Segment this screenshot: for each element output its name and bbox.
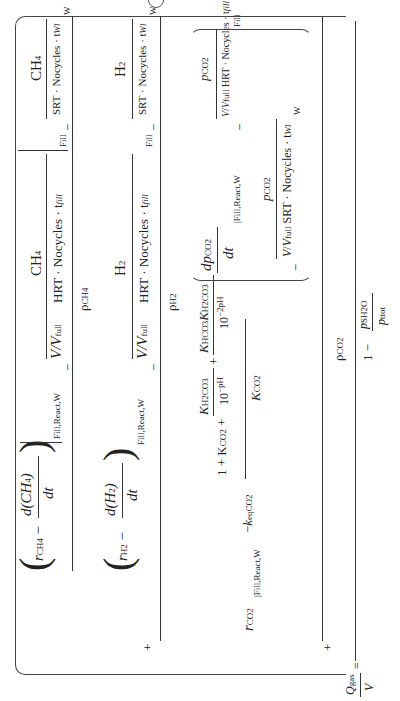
co2-w-bar [276,119,277,259]
co2-fill-bar [216,29,217,119]
ch4-density: ρCH4 [76,287,92,311]
ch4-fill-den: HRT · Nocycles · tfill [50,194,66,303]
main-fraction-bar [355,21,356,661]
co2-fill-eval: Fill [232,14,242,27]
ch4-eval-sub: Fill,React,W [52,393,62,439]
h2-derivative-den: dt [124,489,141,501]
ch4-density-bar [72,16,73,571]
outer-denominator-den: pttot [374,307,389,325]
co2-den-one: 1 + KCO2 + [214,419,230,476]
co2-w-eval: W [292,107,302,116]
ch4-w-minus: − [60,124,76,131]
co2-frac1-bar [213,368,214,416]
h2-w-bar [132,19,133,119]
rotated-equation-page: Qgas V = ρCO2 1 − pSH2O pttot ( rCH4 − d… [0,0,400,701]
co2-keq-fraction-bar [245,319,246,479]
co2-w-num: pCO2 [258,177,274,201]
co2-w-den: V/Vfull SRT · Nocycles · tWl [280,124,295,257]
h2-derivative-bar [122,463,123,518]
co2-frac2-num: KHCO3KH2CO3 [196,284,212,353]
co2-frac2-bar [213,275,214,355]
co2-frac1-num: KH2CO3 [196,378,212,415]
h2-w-num: H2 [112,62,129,77]
ch4-fill-num: CH4 [28,251,45,276]
lhs-fraction-bar [360,673,361,697]
h2-fill-eval: Fill [144,134,154,147]
outer-denominator: 1 − [360,344,376,361]
co2-frac2-den: 10−2pH [215,296,232,329]
h2-rate: rH2 − [114,532,131,561]
co2-derivative-den: dt [220,247,237,259]
co2-plus: + [320,644,336,651]
ch4-w-den: SRT · Nocycles · tWl [50,23,62,115]
ch4-fill-vv: V/Vfull [48,324,65,359]
co2-density-bar [322,16,323,641]
ch4-derivative-num: d(CH4) [18,473,35,516]
co2-keq: −keqCO2 [240,494,256,533]
co2-w-minus: − [288,264,304,271]
h2-w-eval: W [148,7,158,16]
ch4-w-num: CH4 [28,56,45,81]
h2-fill-vv: V/Vfull [134,324,151,359]
h2-fill-bar [132,154,133,359]
ch4-w-eval: W [62,7,72,16]
h2-plus: + [140,644,156,651]
co2-eval-sub: |Fill,React,W [252,549,262,597]
ch4-derivative-den: dt [40,487,57,499]
co2-derivative-num: dpCO2 [198,239,215,271]
equals-sign: = [350,662,365,669]
co2-fill-den: V/Vfull HRT · Nocycles · tfill [220,1,231,117]
outer-denominator-bar [372,293,373,331]
lhs-numerator: Qgas [343,674,358,695]
lhs-denominator: V [362,684,377,691]
ch4-fill-minus: − [60,364,76,371]
co2-fill-minus: − [232,124,248,131]
h2-derivative-num: d(H2) [102,483,119,516]
outer-denominator-num: pSH2O [356,300,371,329]
co2-frac1-den: 10−pH [215,377,232,405]
h2-density: ρH2 [164,294,180,312]
ch4-fill-bar [46,154,47,359]
ch4-fill-eval: Fill [58,134,68,147]
ch4-eval-bar [20,442,62,443]
rho-co2-label: ρCO2 [331,337,347,361]
co2-deriv-eval: |Fill,React,W [232,175,242,223]
co2-den-k: KCO2 [248,375,264,401]
co2-derivative-bar [217,227,218,273]
ch4-rate: rCH4 − [30,526,47,561]
ch4-derivative-bar [38,456,39,518]
co2-frac-plus: + [206,358,222,365]
h2-density-bar [160,16,161,641]
h2-fill-den: HRT · Nocycles · tfill [136,194,152,303]
h2-paren-close: ) [98,448,138,461]
co2-rate: rCO2 [240,608,257,631]
ch4-w-bar [46,19,47,119]
ch4-fill-eval-bar [18,150,68,151]
co2-fill-num: pCO2 [196,57,212,81]
h2-eval-sub: Fill,React,W [136,399,146,445]
h2-fill-num: H2 [112,261,129,276]
h2-w-den: SRT · Nocycles · tWl [136,23,148,115]
